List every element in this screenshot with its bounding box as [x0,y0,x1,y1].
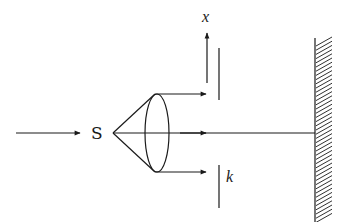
slit-label: k [226,168,234,185]
x-axis-label: x [201,8,209,25]
mirror-hatching [316,37,332,222]
source-label: S [91,123,103,143]
cone-lower-edge [113,133,155,172]
optical-diagram: S x k [0,0,338,222]
cone-upper-edge [113,94,155,133]
